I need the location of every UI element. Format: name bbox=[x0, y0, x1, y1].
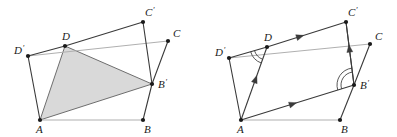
vector-B-to-Cp bbox=[346, 22, 354, 85]
vector-D-to-Cp-shaft bbox=[267, 22, 346, 47]
segment-Cp-Bp bbox=[143, 22, 152, 84]
label-d: D bbox=[263, 31, 272, 43]
vector-A-to-Bp-shaft bbox=[241, 85, 354, 120]
point-c bbox=[368, 42, 372, 46]
segment-A-Dp bbox=[229, 58, 241, 120]
shaded-triangle-A-D-Bp bbox=[40, 46, 152, 120]
vector-A-to-D-head bbox=[251, 76, 257, 84]
label-c-prime: C′ bbox=[348, 6, 358, 19]
point-b-prime bbox=[352, 83, 356, 87]
vector-D-to-Cp-head bbox=[296, 35, 304, 41]
vector-A-to-Bp bbox=[241, 85, 354, 120]
label-b-prime: B′ bbox=[360, 79, 369, 92]
point-b bbox=[141, 118, 145, 122]
left-diagram: ABCDB′C′D′ bbox=[0, 0, 198, 137]
segment-Bp-B bbox=[340, 85, 354, 120]
point-a bbox=[239, 118, 243, 122]
vector-B-to-Cp-shaft bbox=[346, 22, 354, 85]
label-c: C bbox=[375, 30, 383, 42]
label-b: B bbox=[341, 123, 348, 135]
point-c-prime bbox=[141, 20, 145, 24]
point-c bbox=[166, 39, 170, 43]
segment-D-Cp bbox=[65, 22, 143, 46]
label-a: A bbox=[35, 123, 43, 135]
label-d-prime: D′ bbox=[13, 44, 24, 57]
vector-D-to-Cp bbox=[267, 22, 346, 47]
point-d bbox=[63, 44, 67, 48]
angle-arc-at-D bbox=[251, 51, 263, 63]
label-d: D bbox=[61, 30, 70, 42]
geometry-figure: ABCDB′C′D′ ABCDB′C′D′ bbox=[0, 0, 397, 137]
point-b-prime bbox=[150, 82, 154, 86]
vector-A-to-Bp-head bbox=[289, 102, 297, 108]
label-b: B bbox=[144, 123, 151, 135]
label-b-prime: B′ bbox=[158, 78, 167, 91]
label-c-prime: C′ bbox=[145, 6, 155, 19]
point-a bbox=[38, 118, 42, 122]
point-c-prime bbox=[344, 20, 348, 24]
label-a: A bbox=[236, 123, 244, 135]
label-d-prime: D′ bbox=[214, 46, 225, 59]
segment-Bp-B bbox=[143, 84, 152, 120]
segment-A-Dp bbox=[28, 56, 40, 120]
point-d-prime bbox=[227, 56, 231, 60]
point-b bbox=[338, 118, 342, 122]
right-diagram: ABCDB′C′D′ bbox=[198, 0, 397, 137]
label-c: C bbox=[173, 27, 181, 39]
point-d-prime bbox=[26, 54, 30, 58]
point-d bbox=[265, 45, 269, 49]
